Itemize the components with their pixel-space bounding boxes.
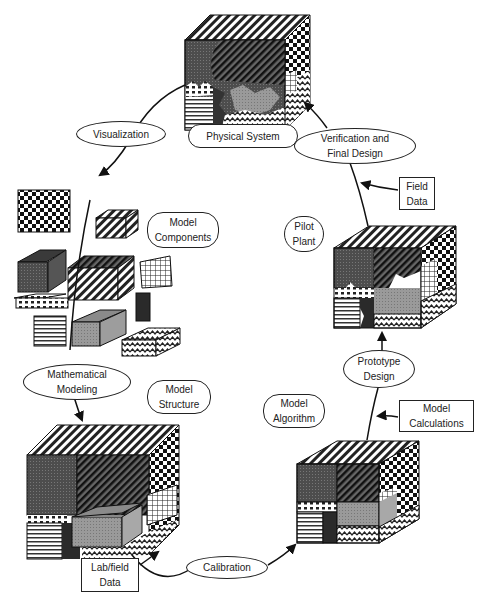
arrow-field-data [362,183,398,190]
model-algorithm-label: Model Algorithm [263,394,325,428]
pilot-plant-cube [334,226,456,328]
model-algorithm-cube [297,441,419,543]
model-calculations-input: Model Calculations [399,400,474,432]
arrow-algorithm-to-prototype [367,388,378,440]
model-structure-label: Model Structure [147,380,211,414]
arrow-verification-final-design [305,103,327,128]
arrow-pilot-to-verification [350,163,368,226]
arrow-model-calculations [378,416,398,417]
model-components-label: Model Components [147,212,219,248]
model-structure-cube [27,425,179,559]
field-data-input: Field Data [399,177,435,210]
arrow-calibration [268,545,295,565]
verification-final-design-label: Verification and Final Design [294,128,416,164]
physical-system-cube [185,15,310,130]
physical-system-label: Physical System [188,124,298,148]
visualization-label: Visualization [76,121,166,147]
pilot-plant-label: Pilot Plant [284,216,324,252]
mathematical-modeling-label: Mathematical Modeling [23,364,131,400]
lab-field-data-input: Lab/field Data [81,558,139,592]
prototype-design-label: Prototype Design [343,350,415,388]
process-cycle-diagram [0,0,488,602]
arrow-structure-to-calibration [132,555,192,576]
calibration-label: Calibration [186,556,268,579]
